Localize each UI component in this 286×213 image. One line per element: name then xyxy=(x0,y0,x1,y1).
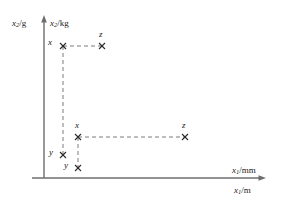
marker-label-x-upper: x xyxy=(48,38,52,47)
horizontal-axis-upper-label: x1/mm xyxy=(232,166,256,176)
horizontal-axis-upper-unit: /mm xyxy=(239,165,256,175)
marker-label-y-left: y xyxy=(49,148,53,157)
horizontal-axis-arrowhead xyxy=(259,175,267,181)
marker-z-middle xyxy=(182,134,188,140)
vertical-axis-arrowhead xyxy=(41,15,47,23)
diagram-graphics xyxy=(0,0,286,213)
marker-label-z-upper: z xyxy=(99,30,103,39)
marker-label-y-middle: y xyxy=(64,161,68,170)
vertical-axis xyxy=(41,15,47,178)
marker-label-z-middle: z xyxy=(182,121,186,130)
dashed-connectors xyxy=(63,46,185,168)
horizontal-axis xyxy=(32,175,266,181)
horizontal-axis-lower-label: x1/m xyxy=(234,186,251,196)
vertical-axis-inner-label: x2/kg xyxy=(50,19,69,29)
figure-canvas: x2/g x2/kg x1/mm x1/m x z y x z y xyxy=(0,0,286,213)
point-markers xyxy=(60,43,188,171)
vertical-axis-outer-label: x2/g xyxy=(12,19,26,29)
vertical-axis-inner-unit: /kg xyxy=(57,18,69,28)
vertical-axis-outer-unit: /g xyxy=(19,18,26,28)
marker-label-x-middle: x xyxy=(75,121,79,130)
horizontal-axis-lower-unit: /m xyxy=(241,185,251,195)
